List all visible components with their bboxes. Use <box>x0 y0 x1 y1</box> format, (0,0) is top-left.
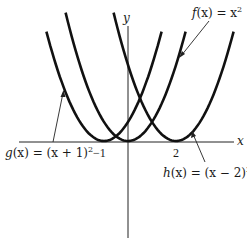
h-annotation-arrow <box>193 134 205 162</box>
tick-label-2: 2 <box>173 146 179 160</box>
f-label: f(x) = x2 <box>191 5 242 20</box>
f-annotation-arrow <box>181 21 209 56</box>
g-label: g(x) = (x + 1)2 <box>5 145 93 160</box>
g-annotation-arrow <box>53 93 63 142</box>
curve-h <box>114 13 234 141</box>
y-axis-label: y <box>122 11 130 25</box>
parabola-diagram: y x −1 2 f(x) = x2 g(x) = (x + 1)2 h(x) … <box>0 0 247 245</box>
curve-g <box>46 32 161 141</box>
tick-label-neg1: −1 <box>93 146 106 160</box>
curve-f <box>66 13 186 141</box>
h-label: h(x) = (x − 2)2 <box>163 165 247 180</box>
x-axis-label: x <box>237 134 244 148</box>
